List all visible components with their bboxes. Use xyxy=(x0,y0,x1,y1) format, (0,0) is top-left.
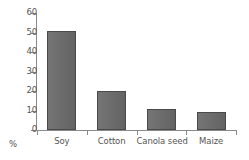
x-category-label: Cotton xyxy=(87,136,137,147)
x-category-label: Canola seed xyxy=(137,136,187,147)
x-category-label: Soy xyxy=(37,136,87,147)
x-separator-tick xyxy=(37,130,38,135)
x-separator-tick xyxy=(236,130,237,135)
x-category-label: Maize xyxy=(186,136,236,147)
y-tick: 30 xyxy=(0,72,37,73)
x-separator-tick xyxy=(137,130,138,135)
bar xyxy=(47,31,76,130)
y-tick-label: 60 xyxy=(11,8,37,17)
bar xyxy=(147,109,176,130)
x-separator-tick xyxy=(87,130,88,135)
bar xyxy=(97,91,126,130)
bar-chart: 0102030405060 SoyCottonCanola seedMaize … xyxy=(0,0,249,160)
y-tick: 20 xyxy=(0,91,37,92)
y-tick-label: 20 xyxy=(11,86,37,95)
y-tick-label: 10 xyxy=(11,106,37,115)
y-tick-label: 0 xyxy=(11,125,37,134)
y-tick: 0 xyxy=(0,130,37,131)
unit-label: % xyxy=(9,139,17,149)
y-tick-label: 30 xyxy=(11,67,37,76)
x-separator-tick xyxy=(186,130,187,135)
plot-area xyxy=(37,13,236,130)
y-tick-label: 40 xyxy=(11,47,37,56)
y-tick: 10 xyxy=(0,111,37,112)
y-tick: 60 xyxy=(0,13,37,14)
y-tick-label: 50 xyxy=(11,28,37,37)
y-tick: 50 xyxy=(0,33,37,34)
y-tick: 40 xyxy=(0,52,37,53)
bar xyxy=(197,112,226,130)
